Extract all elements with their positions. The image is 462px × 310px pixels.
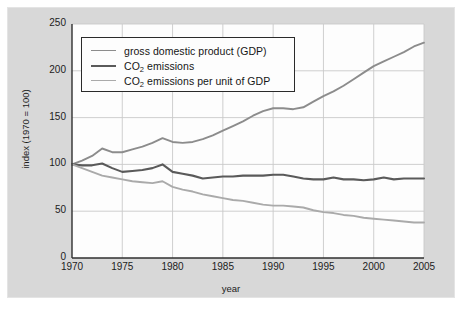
x-axis-title: year <box>0 283 462 294</box>
legend-swatch-co2 <box>91 65 116 67</box>
legend-item-gdp: gross domestic product (GDP) <box>82 43 294 58</box>
y-tick-label: 150 <box>36 111 66 122</box>
y-tick-label: 250 <box>36 17 66 28</box>
legend-item-co2: CO2 emissions <box>82 58 294 73</box>
legend-item-co2-per-gdp: CO2 emissions per unit of GDP <box>82 73 294 88</box>
chart-legend: gross domestic product (GDP) CO2 emissio… <box>81 37 295 92</box>
legend-label-co2-per-gdp: CO2 emissions per unit of GDP <box>124 75 270 87</box>
x-tick-label: 1975 <box>100 261 144 272</box>
y-axis-title-text: index (1970 = 100) <box>20 89 31 169</box>
x-tick-label: 2000 <box>352 261 396 272</box>
x-tick-label: 1990 <box>251 261 295 272</box>
figure-container: 050100150200250 197019751980198519901995… <box>0 0 462 310</box>
legend-swatch-gdp <box>91 50 116 51</box>
y-tick-label: 100 <box>36 157 66 168</box>
y-axis-title: index (1970 = 100) <box>15 74 33 184</box>
x-tick-label: 2005 <box>402 261 446 272</box>
x-tick-label: 1980 <box>151 261 195 272</box>
y-tick-label: 50 <box>36 204 66 215</box>
x-tick-label: 1995 <box>301 261 345 272</box>
y-tick-label: 200 <box>36 64 66 75</box>
legend-label-gdp: gross domestic product (GDP) <box>124 45 267 57</box>
x-tick-label: 1970 <box>50 261 94 272</box>
legend-label-co2: CO2 emissions <box>124 60 194 72</box>
x-tick-label: 1985 <box>201 261 245 272</box>
legend-swatch-co2-per-gdp <box>91 80 116 81</box>
